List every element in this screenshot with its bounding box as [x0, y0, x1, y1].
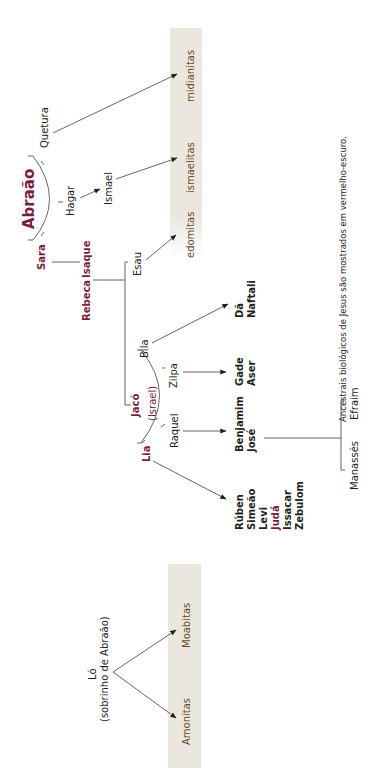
person-sara: Sara	[37, 244, 47, 270]
person-isaque: Isaque	[82, 241, 92, 278]
nation-ismaelitas: ismaelitas	[186, 142, 196, 193]
person-jaco-israel: (Israel)	[148, 386, 158, 421]
person-quetura: Quetura	[40, 107, 50, 148]
son-naftali: Naftali	[246, 280, 258, 318]
son-jose: José	[246, 396, 258, 452]
son-simeao: Simeão	[246, 481, 258, 530]
genealogy-connectors	[0, 0, 375, 768]
person-raquel: Raquel	[170, 414, 180, 448]
son-benjamim: Benjamim	[234, 396, 246, 452]
son-issacar: Issacar	[282, 481, 294, 530]
son-da: Dã	[234, 280, 246, 318]
sons-lia: Rúben Simeão Levi Judá Issacar Zebulom	[234, 481, 306, 530]
nation-moabitas: Moabitas	[182, 603, 192, 648]
son-aser: Aser	[246, 357, 258, 386]
legend-caption: Ancestrais biológicos de Jesus são mostr…	[339, 136, 348, 422]
person-lo-note: (sobrinho de Abraão)	[100, 616, 110, 722]
person-abraao: Abraão	[22, 169, 37, 229]
person-lia: Lia	[142, 445, 152, 462]
nation-amonitas: Amonitas	[182, 698, 192, 745]
son-ruben: Rúben	[234, 481, 246, 530]
person-esau: Esau	[133, 252, 143, 276]
person-bila: Bila	[140, 339, 150, 358]
person-rebeca: Rebeca	[82, 280, 92, 321]
son-efraim: Efraim	[350, 387, 360, 420]
person-hagar: Hagar	[66, 186, 76, 216]
son-manasses: Manassés	[350, 441, 360, 490]
son-juda: Judá	[270, 481, 282, 530]
sons-zilpa: Gade Aser	[234, 357, 258, 386]
son-gade: Gade	[234, 357, 246, 386]
person-lo: Ló	[88, 668, 98, 680]
son-zebulom: Zebulom	[294, 481, 306, 530]
nation-edomitas: edomitas	[186, 212, 196, 258]
sons-bila: Dã Naftali	[234, 280, 258, 318]
son-levi: Levi	[258, 481, 270, 530]
person-jaco: Jacó	[131, 394, 141, 417]
person-zilpa: Zilpa	[169, 363, 179, 388]
sons-raquel: Benjamim José	[234, 396, 258, 452]
person-ismael: Ismael	[104, 172, 114, 205]
nation-midianitas: midianitas	[186, 50, 196, 102]
